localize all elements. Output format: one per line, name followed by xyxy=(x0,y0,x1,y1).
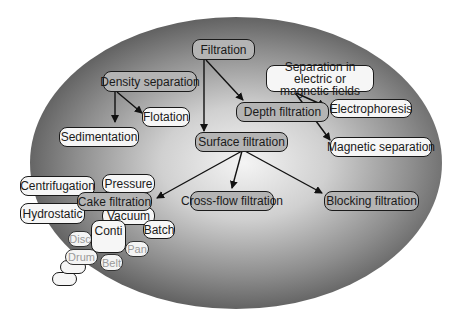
node-electrophoresis: Electrophoresis xyxy=(330,99,412,118)
node-magnetic-separation: Magnetic separation xyxy=(330,137,432,157)
node-cross-flow-filtration: Cross-flow filtration xyxy=(190,191,274,211)
node-surface-filtration: Surface filtration xyxy=(195,132,288,152)
node-blocking-filtration: Blocking filtration xyxy=(324,191,419,211)
node-disc: Disc xyxy=(68,231,92,247)
node-conti: Conti xyxy=(91,220,126,253)
node-hydrostatic: Hydrostatic xyxy=(20,203,85,224)
node-density-separation: Density separation xyxy=(103,71,197,92)
node-sedimentation: Sedimentation xyxy=(59,127,139,147)
node-depth-filtration: Depth filtration xyxy=(236,102,329,122)
node-flotation: Flotation xyxy=(142,107,190,127)
node-pan: Pan xyxy=(125,241,149,257)
node-cake-filtration: Cake filtration xyxy=(77,192,152,211)
node-belt: Belt xyxy=(100,254,123,271)
diagram-canvas: Filtration Depth filtration Surface filt… xyxy=(0,0,452,321)
node-batch: Batch xyxy=(143,220,175,239)
node-separation-fields: Separation in electric or magnetic field… xyxy=(266,65,374,92)
node-filtration: Filtration xyxy=(192,39,255,60)
stack-box-3 xyxy=(52,272,77,286)
node-pressure: Pressure xyxy=(102,174,155,193)
node-drum: Drum xyxy=(65,249,98,265)
